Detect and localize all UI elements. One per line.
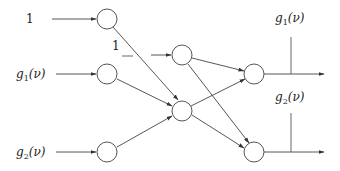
input-label-g2: g2(ν) xyxy=(16,145,46,161)
edge-b2-o1 xyxy=(192,58,244,71)
edge-h1-o1 xyxy=(191,79,245,106)
output-label-g1: g1(ν) xyxy=(275,11,305,27)
node-input-bias xyxy=(97,9,117,29)
input-label-g1: g1(ν) xyxy=(16,67,46,83)
node-hidden xyxy=(172,101,192,121)
output-label-g2: g2(ν) xyxy=(275,90,305,106)
hidden-bias-label: 1 xyxy=(112,39,120,53)
input-label-bias: 1 xyxy=(26,12,34,26)
network-diagram: 1 g1(ν) g2(ν) 1 g1(ν) g2(ν) xyxy=(0,0,340,171)
node-input-g2 xyxy=(97,142,117,162)
node-output-g1 xyxy=(244,64,264,84)
node-input-g1 xyxy=(97,64,117,84)
edge-n2-h1 xyxy=(117,79,172,106)
edge-b2-o2 xyxy=(188,64,249,143)
edge-n3-h1 xyxy=(117,116,172,147)
edge-h1-o2 xyxy=(192,115,244,148)
node-hidden-bias xyxy=(172,45,192,65)
edge-n1-h1 xyxy=(113,27,178,100)
node-output-g2 xyxy=(244,142,264,162)
